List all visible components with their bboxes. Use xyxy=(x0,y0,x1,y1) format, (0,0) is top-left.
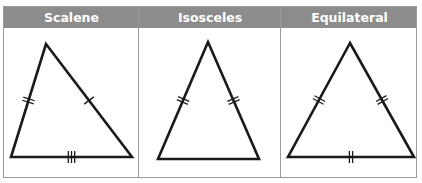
equilateral-triangle-outline xyxy=(288,43,414,157)
isosceles-triangle-outline xyxy=(158,42,259,159)
scalene-triangle xyxy=(11,44,132,163)
equilateral-triangle xyxy=(288,43,414,163)
isosceles-triangle xyxy=(158,42,259,159)
triangles-diagram xyxy=(0,0,422,183)
scalene-triangle-outline xyxy=(11,44,132,157)
